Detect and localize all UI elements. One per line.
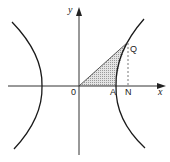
point-q-label: Q [130,44,137,54]
point-a-label: A [110,87,116,97]
point-n-label: N [125,87,132,97]
origin-label: 0 [71,87,76,97]
hyperbola-right-branch [116,19,145,148]
x-axis-label: x [157,86,163,97]
y-axis-arrow-icon [76,7,82,16]
y-axis-label: y [67,4,73,15]
hyperbola-diagram: y x Q 0 A N [0,0,170,162]
